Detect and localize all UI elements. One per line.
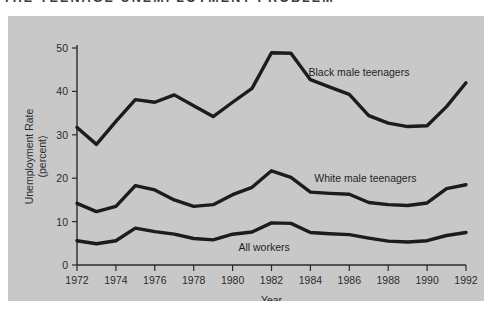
x-tick-label: 1972 xyxy=(65,274,89,286)
series-lines xyxy=(77,53,466,244)
x-tick-label: 1976 xyxy=(143,274,167,286)
y-tick-label: 10 xyxy=(56,216,68,228)
series-label-black-male-teenagers: Black male teenagers xyxy=(308,66,409,78)
x-axis-title: Year xyxy=(261,294,283,301)
chart-panel: 01020304050 1972197419761978198019821984… xyxy=(8,16,484,301)
x-axis: 1972197419761978198019821984198619881990… xyxy=(65,265,478,286)
y-tick-label: 20 xyxy=(56,172,68,184)
x-tick-label: 1982 xyxy=(260,274,284,286)
y-tick-label: 30 xyxy=(56,129,68,141)
chart-title-bar: THE TEENAGE UNEMPLOYMENT PROBLEM xyxy=(0,0,491,7)
y-axis-title-line2: (percent) xyxy=(36,135,48,177)
y-axis: 01020304050 xyxy=(56,42,77,271)
x-tick-label: 1990 xyxy=(415,274,439,286)
x-tick-label: 1984 xyxy=(299,274,323,286)
x-tick-label: 1978 xyxy=(182,274,206,286)
series-label-white-male-teenagers: White male teenagers xyxy=(314,172,416,184)
y-axis-title-line1: Unemployment Rate xyxy=(23,108,35,204)
y-tick-label: 40 xyxy=(56,85,68,97)
line-chart: 01020304050 1972197419761978198019821984… xyxy=(8,16,484,301)
series-label-all-workers: All workers xyxy=(238,241,289,253)
x-tick-label: 1992 xyxy=(454,274,478,286)
x-tick-label: 1986 xyxy=(338,274,362,286)
page-title: THE TEENAGE UNEMPLOYMENT PROBLEM xyxy=(0,0,491,5)
y-tick-label: 0 xyxy=(62,259,68,271)
plot-area: 01020304050 1972197419761978198019821984… xyxy=(8,16,484,301)
x-tick-label: 1988 xyxy=(377,274,401,286)
x-tick-label: 1974 xyxy=(104,274,128,286)
y-tick-label: 50 xyxy=(56,42,68,54)
x-tick-label: 1980 xyxy=(221,274,245,286)
